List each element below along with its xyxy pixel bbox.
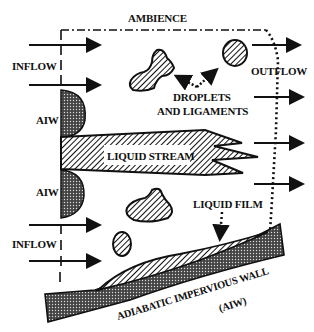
droplets-label-line1: DROPLETS	[173, 91, 231, 103]
ambience-label: AMBIENCE	[128, 12, 187, 24]
ligament-lower	[126, 189, 172, 222]
liquid-film-pointer	[220, 212, 222, 237]
droplet-small	[113, 232, 131, 256]
aiw-bottom-shape	[61, 170, 84, 218]
aiw-top-label: AIW	[36, 114, 59, 126]
ligament-shape	[130, 50, 174, 91]
droplet-pointer-right	[197, 71, 215, 87]
aiw-bottom-label: AIW	[36, 186, 59, 198]
droplet-pointer-left	[178, 77, 197, 87]
outflow-label: OUTFLOW	[251, 65, 307, 77]
aiw-top-shape	[61, 90, 85, 138]
ambience-boundary-right	[266, 30, 278, 232]
inflow-top-label: INFLOW	[12, 60, 57, 72]
liquid-film-label: LIQUID FILM	[193, 198, 263, 210]
liquid-stream-label: LIQUID STREAM	[107, 150, 195, 162]
atomization-diagram: AMBIENCE INFLOW OUTFLOW AIW AIW DROPLETS…	[0, 0, 314, 332]
droplet-large	[223, 40, 247, 66]
inflow-bottom-label: INFLOW	[12, 238, 57, 250]
droplets-label-line2: AND LIGAMENTS	[157, 105, 248, 117]
wall-label-line2: (AIW)	[217, 295, 248, 315]
inlet-boundary-lower	[60, 224, 61, 282]
